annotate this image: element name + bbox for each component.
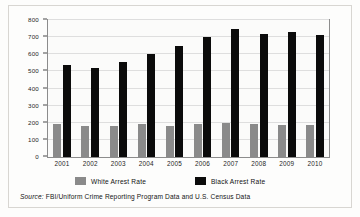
bar-2001-white bbox=[53, 124, 61, 157]
y-tick-label: 200 bbox=[28, 118, 39, 125]
bar-2010-white bbox=[306, 125, 314, 157]
x-tick-label: 2002 bbox=[83, 160, 98, 167]
legend-label: White Arrest Rate bbox=[91, 178, 146, 185]
legend-label: Black Arrest Rate bbox=[211, 178, 265, 185]
bar-2002-black bbox=[91, 68, 99, 157]
x-tick-label: 2005 bbox=[167, 160, 182, 167]
x-axis: 2001200220032004200520062007200820092010 bbox=[48, 160, 329, 174]
y-tick-label: 100 bbox=[28, 135, 39, 142]
bar-2007-black bbox=[231, 29, 239, 157]
bar-2006-black bbox=[203, 37, 211, 157]
y-tick-label: 0 bbox=[35, 153, 39, 160]
bar-2001-black bbox=[63, 65, 71, 157]
bar-2003-black bbox=[119, 62, 127, 157]
bars-layer bbox=[48, 20, 329, 157]
y-tick-label: 300 bbox=[28, 101, 39, 108]
x-tick-label: 2003 bbox=[111, 160, 126, 167]
legend-swatch-icon bbox=[75, 177, 86, 185]
x-tick-label: 2008 bbox=[251, 160, 266, 167]
x-tick-label: 2010 bbox=[307, 160, 322, 167]
bar-chart-figure: Arrest Rates per 100,000 010020030040050… bbox=[0, 0, 360, 217]
bar-2004-black bbox=[147, 54, 155, 157]
x-tick-label: 2004 bbox=[139, 160, 154, 167]
bar-2008-white bbox=[250, 124, 258, 157]
x-tick-label: 2006 bbox=[195, 160, 210, 167]
bar-2006-white bbox=[194, 124, 202, 157]
chart-legend: White Arrest RateBlack Arrest Rate bbox=[47, 175, 330, 187]
legend-entry-black-rate: Black Arrest Rate bbox=[195, 175, 265, 187]
y-tick-label: 500 bbox=[28, 67, 39, 74]
legend-swatch-icon bbox=[195, 177, 206, 185]
legend-entry-white-rate: White Arrest Rate bbox=[75, 175, 146, 187]
bar-2002-white bbox=[81, 126, 89, 157]
x-tick-label: 2009 bbox=[279, 160, 294, 167]
y-tick-label: 600 bbox=[28, 50, 39, 57]
bar-2008-black bbox=[260, 34, 268, 157]
bar-2009-white bbox=[278, 125, 286, 157]
y-tick-label: 700 bbox=[28, 33, 39, 40]
bar-2005-black bbox=[175, 46, 183, 157]
y-tick-label: 800 bbox=[28, 16, 39, 23]
bar-2009-black bbox=[288, 32, 296, 157]
x-tick-label: 2001 bbox=[55, 160, 70, 167]
bar-2005-white bbox=[166, 126, 174, 157]
bar-2010-black bbox=[316, 35, 324, 157]
y-axis: 0100200300400500600700800 bbox=[0, 19, 47, 158]
bar-2007-white bbox=[222, 123, 230, 157]
source-note: Source: FBI/Uniform Crime Reporting Prog… bbox=[20, 193, 250, 200]
x-tick-label: 2007 bbox=[223, 160, 238, 167]
bar-2004-white bbox=[138, 124, 146, 157]
source-label: Source: bbox=[20, 193, 44, 200]
bar-2003-white bbox=[110, 126, 118, 157]
y-tick-label: 400 bbox=[28, 84, 39, 91]
source-text: FBI/Uniform Crime Reporting Program Data… bbox=[46, 193, 250, 200]
